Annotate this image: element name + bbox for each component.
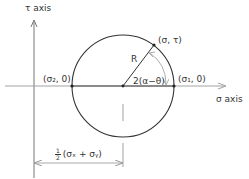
center-dimension-expression: (σₓ + σᵧ) bbox=[63, 149, 102, 159]
point-sigma-tau bbox=[152, 43, 155, 46]
point-center bbox=[122, 85, 125, 88]
radius-label: R bbox=[131, 55, 137, 64]
diagram-canvas bbox=[0, 0, 249, 179]
half-fraction: 1 2 bbox=[55, 148, 61, 161]
point-sigma1 bbox=[172, 84, 175, 87]
mohr-circle-diagram: τ axis σ axis (σ₂, 0) (σ₁, 0) (σ, τ) R 2… bbox=[0, 0, 249, 179]
fraction-denominator: 2 bbox=[55, 155, 61, 161]
point-sigma2 bbox=[70, 84, 73, 87]
point-sigma-tau-label: (σ, τ) bbox=[158, 36, 182, 45]
point-sigma2-label: (σ₂, 0) bbox=[43, 75, 71, 84]
center-dimension-label: 1 2 (σₓ + σᵧ) bbox=[55, 148, 102, 161]
point-sigma1-label: (σ₁, 0) bbox=[178, 75, 206, 84]
angle-label: 2(α−θ) bbox=[133, 77, 165, 86]
tau-axis-label: τ axis bbox=[25, 4, 51, 13]
sigma-axis-label: σ axis bbox=[216, 95, 243, 104]
